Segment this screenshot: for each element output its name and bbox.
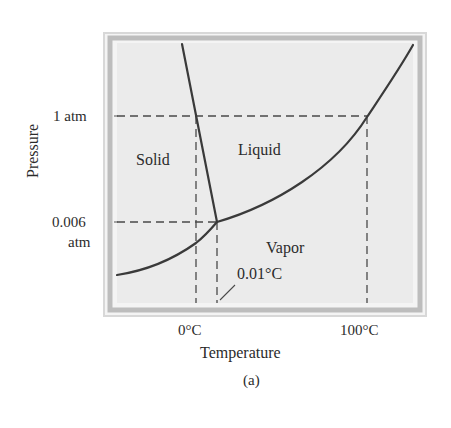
x-axis-label: Temperature [200, 345, 281, 361]
vapor-region-label: Vapor [266, 240, 304, 256]
y-axis-label: Pressure [24, 124, 42, 178]
y-tick-label-0006: 0.006 [52, 214, 86, 230]
triple-point-temp-label: 0.01°C [237, 266, 282, 282]
phase-diagram-figure: Solid Liquid Vapor 0.01°C 1 atm 0.006 at… [0, 0, 451, 428]
y-tick-label-atm: atm [68, 234, 91, 250]
figure-caption: (a) [243, 372, 260, 388]
plot-area [117, 43, 413, 303]
x-tick-label-0c: 0°C [178, 322, 202, 338]
solid-region-label: Solid [136, 152, 170, 168]
liquid-region-label: Liquid [238, 142, 281, 158]
y-tick-label-1atm: 1 atm [53, 108, 87, 124]
x-tick-label-100c: 100°C [340, 322, 379, 338]
